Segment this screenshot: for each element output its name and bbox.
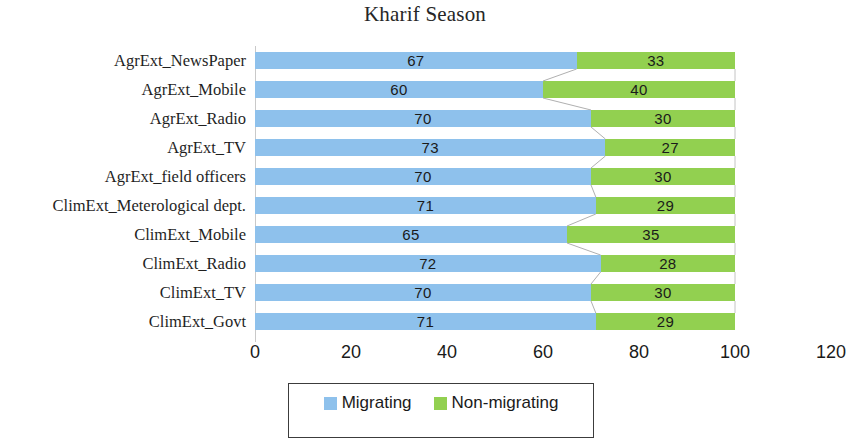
plot-area: AgrExt_NewsPaper6733AgrExt_Mobile6040Agr… [0,46,850,342]
x-axis: 020406080100120 [0,342,850,372]
x-axis-tick-label: 80 [609,342,669,363]
chart-legend: MigratingNon-migrating [288,383,594,438]
chart-title: Kharif Season [0,2,850,27]
legend-entry[interactable]: Non-migrating [434,393,559,413]
stack-connector-lines [0,46,850,342]
x-axis-tick-label: 120 [801,342,850,363]
legend-label: Non-migrating [452,393,559,413]
x-axis-tick-label: 100 [705,342,765,363]
legend-entry[interactable]: Migrating [324,393,412,413]
legend-entries: MigratingNon-migrating [289,393,593,413]
legend-swatch-icon [324,397,337,410]
legend-label: Migrating [342,393,412,413]
x-axis-tick-label: 20 [321,342,381,363]
x-axis-tick-label: 60 [513,342,573,363]
x-axis-tick-label: 40 [417,342,477,363]
legend-swatch-icon [434,397,447,410]
x-axis-tick-label: 0 [225,342,285,363]
